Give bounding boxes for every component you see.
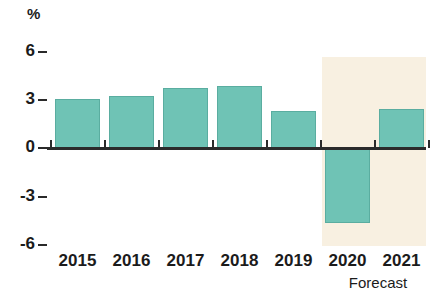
x-tick-mark [104,140,106,148]
y-tick-0: 0 [0,138,47,155]
y-tick-neg3: -3 [0,187,47,204]
bar-chart: % 6 3 0 -3 -6 2015 2016 2017 2018 2019 2… [0,0,433,294]
bar-2017 [163,88,208,148]
y-tick-neg6: -6 [0,235,47,252]
x-label-2019: 2019 [264,252,324,269]
y-tick-6-mark [38,51,47,53]
y-tick-3-mark [38,99,47,101]
x-tick-mark [374,140,376,148]
x-tick-mark [212,140,214,148]
y-tick-6-label: 6 [26,41,35,60]
x-label-2020: 2020 [318,252,378,269]
x-label-2016: 2016 [102,252,162,269]
y-tick-neg6-label: -6 [20,234,35,253]
plot-area: % 6 3 0 -3 -6 2015 2016 2017 2018 2019 2… [0,0,433,294]
x-tick-mark [428,140,430,148]
y-tick-3: 3 [0,90,47,107]
bar-2018 [217,86,262,148]
y-tick-0-label: 0 [26,137,35,156]
y-tick-neg3-label: -3 [20,186,35,205]
x-tick-mark [50,140,52,148]
bar-2019 [271,111,316,148]
y-tick-0-mark [38,147,47,149]
y-tick-neg6-mark [38,244,47,246]
x-label-2017: 2017 [156,252,216,269]
y-axis-unit-label: % [27,6,40,21]
x-label-2018: 2018 [210,252,270,269]
bar-2020 [325,148,370,223]
x-label-2015: 2015 [48,252,108,269]
bar-2021 [379,109,424,148]
bar-2015 [55,99,100,148]
forecast-caption: Forecast [330,275,426,290]
y-tick-3-label: 3 [26,89,35,108]
x-tick-mark [158,140,160,148]
bar-2016 [109,96,154,148]
x-tick-mark [320,140,322,148]
y-tick-neg3-mark [38,196,47,198]
y-tick-6: 6 [0,42,47,59]
x-label-2021: 2021 [372,252,432,269]
x-tick-mark [266,140,268,148]
